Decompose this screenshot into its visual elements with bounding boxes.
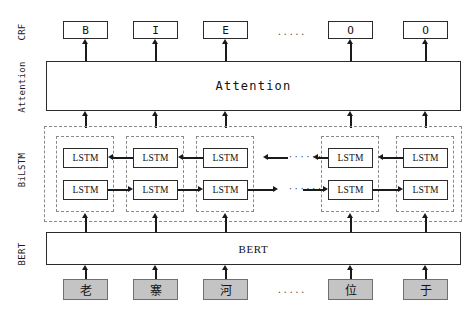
arrowhead-bilstm-to-attention-5 bbox=[422, 111, 428, 116]
lstm-backward-cell-5[interactable]: LSTM bbox=[403, 148, 448, 168]
input-token-1[interactable]: 老 bbox=[63, 279, 108, 300]
architecture-diagram: CRF Attention BiLSTM BERT B I E ..... O … bbox=[0, 0, 476, 310]
arrow-bert-to-bilstm-4 bbox=[350, 218, 352, 233]
arrow-bert-to-bilstm-2 bbox=[155, 218, 157, 233]
arrowhead-backward-2-to-1 bbox=[108, 154, 113, 160]
arrow-bert-to-bilstm-5 bbox=[425, 218, 427, 233]
arrow-forward-2-to-3 bbox=[178, 189, 198, 191]
layer-label-bilstm: BiLSTM bbox=[17, 143, 27, 197]
bert-label: BERT bbox=[239, 243, 269, 255]
lstm-forward-cell-2[interactable]: LSTM bbox=[133, 180, 178, 200]
layer-label-attention: Attention bbox=[17, 56, 27, 118]
arrow-backward-2-to-1 bbox=[113, 157, 133, 159]
arrow-forward-ellipsis-to-4 bbox=[303, 189, 323, 191]
input-token-2[interactable]: 寨 bbox=[133, 279, 178, 300]
arrowhead-forward-3-to-ellipsis bbox=[273, 186, 278, 192]
arrowhead-forward-1-to-2 bbox=[128, 186, 133, 192]
input-token-4[interactable]: 位 bbox=[328, 279, 373, 300]
arrowhead-token-to-bert-1 bbox=[82, 265, 88, 270]
arrowhead-backward-4-to-ellipsis bbox=[313, 154, 318, 160]
layer-label-crf: CRF bbox=[17, 12, 27, 52]
arrowhead-attention-to-crf-5 bbox=[422, 39, 428, 44]
arrowhead-bert-to-bilstm-2 bbox=[152, 213, 158, 218]
arrowhead-backward-3-to-2 bbox=[178, 154, 183, 160]
crf-tag-4[interactable]: O bbox=[328, 21, 373, 39]
input-token-5[interactable]: 于 bbox=[403, 279, 448, 300]
lstm-backward-cell-1[interactable]: LSTM bbox=[63, 148, 108, 168]
arrow-bert-to-bilstm-1 bbox=[85, 218, 87, 233]
arrowhead-attention-to-crf-3 bbox=[222, 39, 228, 44]
arrowhead-attention-to-crf-1 bbox=[82, 39, 88, 44]
attention-layer-box[interactable]: Attention bbox=[46, 61, 461, 111]
arrow-attention-to-crf-5 bbox=[425, 44, 427, 61]
arrowhead-attention-to-crf-4 bbox=[347, 39, 353, 44]
arrowhead-forward-2-to-3 bbox=[198, 186, 203, 192]
arrow-backward-ellipsis-to-3 bbox=[268, 157, 288, 159]
arrow-bert-to-bilstm-3 bbox=[225, 218, 227, 233]
arrowhead-bert-to-bilstm-3 bbox=[222, 213, 228, 218]
arrowhead-forward-ellipsis-to-4 bbox=[323, 186, 328, 192]
arrow-backward-5-to-4 bbox=[383, 157, 403, 159]
lstm-backward-cell-2[interactable]: LSTM bbox=[133, 148, 178, 168]
arrowhead-backward-ellipsis-to-3 bbox=[263, 154, 268, 160]
arrowhead-attention-to-crf-2 bbox=[152, 39, 158, 44]
layer-label-bert: BERT bbox=[17, 232, 27, 276]
lstm-forward-cell-5[interactable]: LSTM bbox=[403, 180, 448, 200]
crf-ellipsis: ..... bbox=[277, 28, 306, 37]
input-ellipsis: ..... bbox=[277, 286, 306, 295]
arrowhead-bert-to-bilstm-5 bbox=[422, 213, 428, 218]
attention-label: Attention bbox=[216, 79, 292, 93]
lstm-forward-cell-1[interactable]: LSTM bbox=[63, 180, 108, 200]
input-token-3[interactable]: 河 bbox=[203, 279, 248, 300]
arrowhead-token-to-bert-3 bbox=[222, 265, 228, 270]
arrowhead-forward-4-to-5 bbox=[398, 186, 403, 192]
crf-tag-2[interactable]: I bbox=[133, 21, 178, 39]
arrow-forward-4-to-5 bbox=[373, 189, 398, 191]
arrow-attention-to-crf-2 bbox=[155, 44, 157, 61]
lstm-forward-cell-3[interactable]: LSTM bbox=[203, 180, 248, 200]
arrowhead-token-to-bert-4 bbox=[347, 265, 353, 270]
arrowhead-bert-to-bilstm-1 bbox=[82, 213, 88, 218]
arrowhead-backward-5-to-4 bbox=[378, 154, 383, 160]
arrow-backward-4-to-ellipsis bbox=[318, 157, 328, 159]
arrowhead-token-to-bert-2 bbox=[152, 265, 158, 270]
arrow-attention-to-crf-3 bbox=[225, 44, 227, 61]
arrowhead-bilstm-to-attention-4 bbox=[347, 111, 353, 116]
arrowhead-bilstm-to-attention-2 bbox=[152, 111, 158, 116]
lstm-backward-cell-3[interactable]: LSTM bbox=[203, 148, 248, 168]
arrowhead-token-to-bert-5 bbox=[422, 265, 428, 270]
crf-tag-5[interactable]: O bbox=[403, 21, 448, 39]
lstm-forward-cell-4[interactable]: LSTM bbox=[328, 180, 373, 200]
crf-tag-3[interactable]: E bbox=[203, 21, 248, 39]
arrow-attention-to-crf-1 bbox=[85, 44, 87, 61]
arrowhead-bilstm-to-attention-1 bbox=[82, 111, 88, 116]
lstm-backward-cell-4[interactable]: LSTM bbox=[328, 148, 373, 168]
arrow-attention-to-crf-4 bbox=[350, 44, 352, 61]
arrowhead-bilstm-to-attention-3 bbox=[222, 111, 228, 116]
arrow-backward-3-to-2 bbox=[183, 157, 203, 159]
arrow-forward-1-to-2 bbox=[108, 189, 128, 191]
arrowhead-bert-to-bilstm-4 bbox=[347, 213, 353, 218]
crf-tag-1[interactable]: B bbox=[63, 21, 108, 39]
bert-layer-box[interactable]: BERT bbox=[46, 232, 461, 265]
arrow-forward-3-to-ellipsis bbox=[248, 189, 273, 191]
